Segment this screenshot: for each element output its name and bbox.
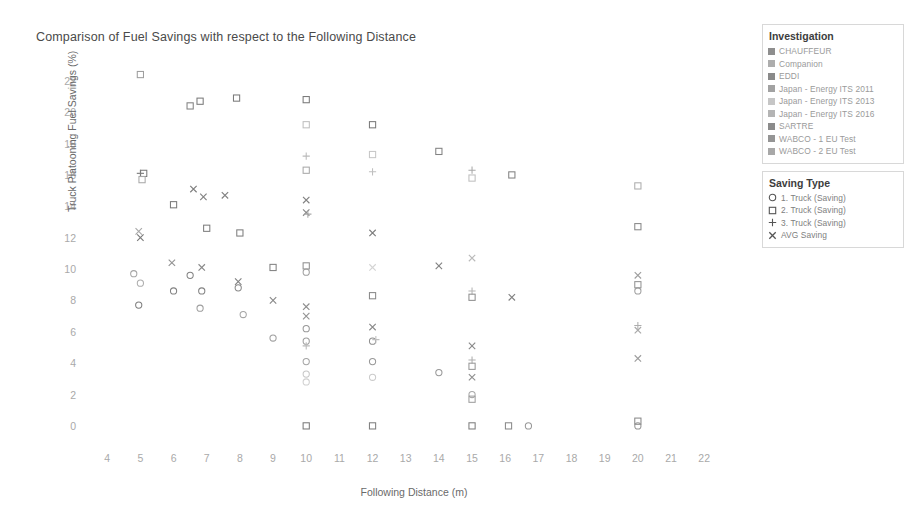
x-axis-label: Following Distance (m) (84, 486, 744, 498)
data-point (170, 288, 176, 294)
data-point (131, 271, 137, 277)
data-point (199, 288, 205, 294)
legend: Investigation CHAUFFEURCompanionEDDIJapa… (762, 24, 904, 248)
data-point (170, 202, 176, 208)
color-swatch-icon (768, 85, 775, 92)
data-point (303, 269, 309, 275)
data-point (525, 423, 531, 429)
data-point (436, 263, 442, 269)
legend-item-saving-type[interactable]: 1. Truck (Saving) (768, 192, 898, 205)
legend-item-saving-type[interactable]: 2. Truck (Saving) (768, 204, 898, 217)
data-point (469, 294, 475, 300)
legend-item-investigation[interactable]: Japan - Energy ITS 2013 (768, 95, 898, 108)
legend-saving-type: Saving Type 1. Truck (Saving)2. Truck (S… (762, 171, 904, 248)
legend-investigation-title: Investigation (769, 30, 898, 42)
data-point (369, 423, 375, 429)
data-point (303, 263, 309, 269)
data-point (635, 355, 641, 361)
square-icon (768, 206, 777, 215)
legend-item-investigation[interactable]: WABCO - 2 EU Test (768, 145, 898, 158)
legend-item-label: CHAUFFEUR (779, 46, 832, 56)
x-tick-label: 5 (125, 452, 155, 464)
legend-item-label: 3. Truck (Saving) (781, 218, 846, 228)
data-point (303, 197, 309, 203)
x-tick-label: 11 (324, 452, 354, 464)
legend-item-label: Japan - Energy ITS 2011 (779, 84, 874, 94)
x-tick-label: 13 (391, 452, 421, 464)
data-point (204, 225, 210, 231)
x-icon (768, 231, 777, 240)
data-point (469, 423, 475, 429)
legend-item-label: Japan - Energy ITS 2016 (779, 109, 874, 119)
plot-points-layer (84, 62, 744, 440)
legend-item-investigation[interactable]: CHAUFFEUR (768, 45, 898, 58)
x-tick-label: 18 (557, 452, 587, 464)
legend-item-label: 1. Truck (Saving) (781, 193, 846, 203)
data-point (505, 423, 511, 429)
y-tick-label: 0 (42, 420, 76, 432)
data-point (469, 391, 475, 397)
data-point (635, 288, 641, 294)
legend-item-label: SARTRE (779, 121, 813, 131)
data-point (372, 336, 379, 343)
data-point (303, 379, 309, 385)
x-tick-label: 12 (358, 452, 388, 464)
y-tick-label: 4 (42, 357, 76, 369)
color-swatch-icon (768, 123, 775, 130)
data-point (235, 278, 241, 284)
data-point (197, 98, 203, 104)
data-point (240, 311, 246, 317)
data-point (197, 305, 203, 311)
legend-item-investigation[interactable]: Companion (768, 58, 898, 71)
data-point (468, 356, 475, 363)
data-point (369, 264, 375, 270)
x-tick-label: 21 (656, 452, 686, 464)
data-point (369, 168, 376, 175)
color-swatch-icon (768, 60, 775, 67)
data-point (509, 294, 515, 300)
data-point (303, 326, 309, 332)
plot-area: 0246810121416182022 45678910111213141516… (84, 62, 744, 440)
data-point (436, 148, 442, 154)
data-point (303, 423, 309, 429)
legend-item-label: WABCO - 2 EU Test (779, 146, 856, 156)
data-point (369, 374, 375, 380)
legend-item-saving-type[interactable]: 3. Truck (Saving) (768, 217, 898, 230)
x-tick-label: 15 (457, 452, 487, 464)
legend-investigation: Investigation CHAUFFEURCompanionEDDIJapa… (762, 24, 904, 164)
legend-item-investigation[interactable]: EDDI (768, 70, 898, 83)
data-point (137, 280, 143, 286)
data-point (137, 71, 143, 77)
data-point (369, 358, 375, 364)
data-point (303, 371, 309, 377)
data-point (303, 358, 309, 364)
legend-item-investigation[interactable]: Japan - Energy ITS 2011 (768, 83, 898, 96)
x-tick-label: 20 (623, 452, 653, 464)
data-point (235, 285, 241, 291)
color-swatch-icon (768, 48, 775, 55)
legend-item-investigation[interactable]: Japan - Energy ITS 2016 (768, 108, 898, 121)
color-swatch-icon (768, 110, 775, 117)
data-point (139, 177, 145, 183)
legend-item-label: Japan - Energy ITS 2013 (779, 96, 874, 106)
data-point (468, 287, 475, 294)
legend-item-investigation[interactable]: SARTRE (768, 120, 898, 133)
data-point (270, 335, 276, 341)
y-tick-label: 10 (42, 263, 76, 275)
data-point (635, 183, 641, 189)
data-point (136, 302, 142, 308)
x-tick-label: 22 (689, 452, 719, 464)
color-swatch-icon (768, 135, 775, 142)
data-point (303, 97, 309, 103)
legend-item-investigation[interactable]: WABCO - 1 EU Test (768, 133, 898, 146)
data-point (469, 374, 475, 380)
x-tick-label: 16 (490, 452, 520, 464)
data-point (635, 282, 641, 288)
data-point (635, 423, 641, 429)
legend-item-saving-type[interactable]: AVG Saving (768, 229, 898, 242)
y-tick-label: 2 (42, 389, 76, 401)
legend-item-label: AVG Saving (781, 230, 827, 240)
data-point (369, 122, 375, 128)
data-point (237, 230, 243, 236)
data-point (187, 272, 193, 278)
